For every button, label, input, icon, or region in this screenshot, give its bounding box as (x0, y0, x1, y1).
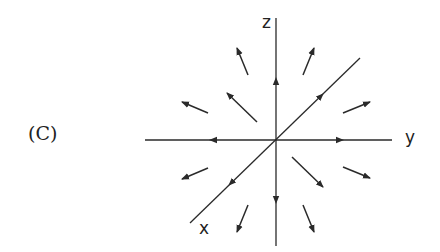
arrow-icon (343, 102, 370, 113)
arrow-icon (227, 93, 257, 122)
arrow-icon (303, 205, 314, 232)
arrow-icon (182, 168, 208, 179)
arrow-icon (292, 157, 323, 187)
vector-field-diagram: (C) z y x (0, 0, 440, 252)
y-axis-label: y (405, 127, 415, 147)
arrow-icon (343, 167, 370, 178)
arrow-icon (237, 48, 248, 75)
arrow-icon (237, 205, 248, 232)
panel-label: (C) (28, 122, 57, 144)
x-axis-label: x (199, 218, 209, 238)
z-axis-label: z (262, 12, 271, 32)
arrow-icon (303, 48, 314, 75)
diagram-canvas (0, 0, 440, 252)
arrow-icon (182, 102, 208, 113)
